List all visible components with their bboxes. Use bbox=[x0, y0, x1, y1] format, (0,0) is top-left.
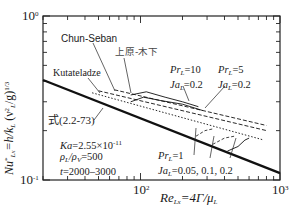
y-label-exp: 1/3 bbox=[3, 82, 11, 91]
arrow-uehara bbox=[124, 58, 131, 93]
y-label-sub2: L bbox=[9, 124, 17, 128]
pr5-line2: JaL=0.2 bbox=[218, 79, 251, 94]
arrow-kutateladze bbox=[88, 78, 100, 93]
param-ka-exp: -11 bbox=[113, 139, 122, 147]
pr1-line2: JaL=0.05, 0.1, 0.2 bbox=[158, 165, 233, 180]
pr5-pr: Pr bbox=[218, 64, 229, 75]
y-tick-bottom: 10-1 bbox=[20, 172, 39, 188]
label-eq: 式(2.2-73) bbox=[48, 115, 95, 126]
series-line-5 bbox=[131, 97, 203, 110]
y-tick-top: 100 bbox=[22, 8, 39, 24]
y-label-paren: (ν bbox=[2, 111, 16, 123]
y-label-nu-sup: 2 bbox=[3, 108, 11, 112]
y-axis-label: Nu*Lx=h/kL (ν2L/g)1/3 bbox=[2, 82, 17, 175]
series-line-7 bbox=[213, 136, 235, 144]
x-tick-100: 102 bbox=[133, 182, 150, 198]
label-uehara: 上原-木下 bbox=[115, 46, 158, 57]
param-rho: ρL/ρV=500 bbox=[60, 151, 122, 166]
x-tick-1000-exp: 3 bbox=[285, 184, 289, 192]
param-rho-sep: /ρ bbox=[69, 151, 77, 162]
param-t: t=2000–3000 bbox=[60, 166, 122, 177]
pr1-pr: Pr bbox=[158, 150, 169, 161]
y-tick-bottom-base: 10 bbox=[20, 172, 33, 187]
param-t-val: =2000–3000 bbox=[63, 166, 116, 177]
y-tick-top-base: 10 bbox=[22, 8, 35, 23]
x-label-re: Re bbox=[160, 190, 174, 205]
series-line-6 bbox=[196, 129, 213, 136]
pr5-line1: PrL=5 bbox=[218, 64, 251, 79]
pr10-pr: Pr bbox=[170, 64, 181, 75]
x-tick-100-base: 10 bbox=[133, 182, 146, 197]
pr5-ja: Ja bbox=[218, 79, 228, 90]
param-ka-sym: Ka bbox=[60, 140, 72, 151]
pr10-val: =10 bbox=[184, 64, 200, 75]
label-pr5: PrL=5 JaL=0.2 bbox=[218, 64, 251, 94]
pr1-line1: PrL=1 bbox=[158, 150, 233, 165]
label-chun-seban: Chun-Seban bbox=[61, 33, 117, 44]
pr10-line1: PrL=10 bbox=[170, 64, 203, 79]
x-label-sub: Lx bbox=[174, 198, 181, 206]
pr10-ja: Ja bbox=[170, 79, 180, 90]
param-rho-val: =500 bbox=[81, 151, 103, 162]
y-label-mid: =h/k bbox=[2, 128, 16, 151]
y-label-sub: Lx bbox=[9, 150, 17, 157]
arrow-eq bbox=[94, 108, 103, 120]
pr1-val: =1 bbox=[172, 150, 183, 161]
series-line-3 bbox=[114, 90, 266, 126]
y-label-g: /g) bbox=[2, 91, 16, 104]
label-pr10: PrL=10 JaL=0.2 bbox=[170, 64, 203, 94]
x-label-rest: =4Γ/μ bbox=[181, 190, 214, 205]
x-label-sub2: L bbox=[214, 198, 218, 206]
y-tick-bottom-exp: -1 bbox=[33, 174, 39, 182]
x-tick-100-exp: 2 bbox=[146, 184, 150, 192]
x-tick-1000-base: 10 bbox=[272, 182, 285, 197]
pr5-javal: =0.2 bbox=[232, 79, 251, 90]
y-label-nu-sub: L bbox=[9, 104, 17, 108]
x-tick-1000: 103 bbox=[272, 182, 289, 198]
pr10-line2: JaL=0.2 bbox=[170, 79, 203, 94]
pr1-ja: Ja bbox=[158, 165, 168, 176]
x-axis-label: ReLx=4Γ/μL bbox=[160, 190, 217, 206]
y-tick-top-exp: 0 bbox=[35, 10, 39, 18]
param-ka-val: =2.55×10 bbox=[72, 140, 113, 151]
y-label-star: * bbox=[3, 157, 11, 161]
label-pr1: PrL=1 JaL=0.05, 0.1, 0.2 bbox=[158, 150, 233, 180]
pr1-javal: =0.05, 0.1, 0.2 bbox=[172, 165, 233, 176]
param-ka: Ka=2.55×10-11 bbox=[60, 138, 122, 151]
pr5-val: =5 bbox=[232, 64, 243, 75]
label-params: Ka=2.55×10-11 ρL/ρV=500 t=2000–3000 bbox=[60, 138, 122, 177]
pr10-javal: =0.2 bbox=[184, 79, 203, 90]
label-kutateladze: Kutateladze bbox=[53, 67, 101, 78]
y-label-nu: Nu bbox=[2, 161, 16, 175]
